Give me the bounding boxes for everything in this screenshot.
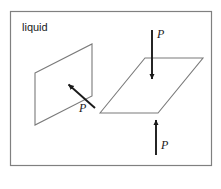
pressure-force-upward-label: P xyxy=(160,138,169,152)
pressure-diagram: liquid P P P xyxy=(0,0,221,189)
figure-root: liquid P P P xyxy=(0,0,221,189)
liquid-label: liquid xyxy=(22,21,48,33)
figure-border xyxy=(11,12,212,166)
pressure-force-normal-vertical-label: P xyxy=(78,101,87,115)
pressure-force-downward-label: P xyxy=(156,27,165,41)
